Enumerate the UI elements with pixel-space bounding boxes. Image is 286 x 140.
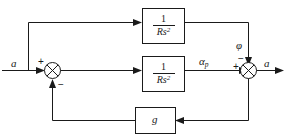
middle-block-numerator: 1: [158, 62, 169, 73]
middle-block-transfer-function: 1 Rs2: [143, 58, 184, 90]
gain-block-label: g: [152, 114, 158, 125]
input-signal-label: a: [11, 58, 17, 69]
arrow-into-top-block: [133, 19, 142, 26]
right-junction-plus-sign: +: [233, 62, 239, 72]
output-signal-label: a: [264, 58, 270, 69]
middle-block-denominator: Rs2: [154, 74, 174, 86]
arrow-into-left-junction: [36, 67, 45, 74]
arrow-feedback-into-left-junction: [49, 79, 56, 88]
intermediate-signal-label: αp: [199, 56, 209, 69]
top-block-denominator: Rs2: [154, 26, 174, 38]
left-junction-plus-sign: +: [38, 57, 44, 67]
left-junction-minus-sign: −: [58, 80, 64, 90]
block-diagram: 1 Rs2 1 Rs2 g a + − αp φ − + a: [0, 0, 286, 140]
disturbance-signal-label: φ: [236, 40, 242, 51]
arrow-output: [275, 67, 284, 74]
arrow-into-gain-block: [175, 117, 184, 124]
top-block-numerator: 1: [158, 14, 169, 25]
top-block-transfer-function: 1 Rs2: [143, 10, 184, 42]
arrow-into-middle-block: [133, 67, 142, 74]
